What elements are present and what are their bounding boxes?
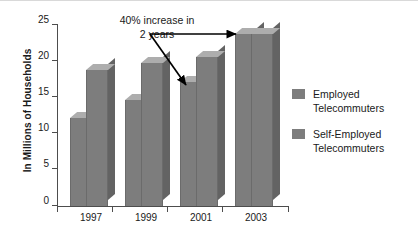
bar-2001-self-employed bbox=[196, 57, 218, 206]
y-tick-label-5: 5 bbox=[43, 158, 49, 169]
bar-side bbox=[273, 22, 280, 200]
y-tick-label-15: 15 bbox=[38, 86, 49, 97]
y-axis-title: In Millions of Households bbox=[22, 26, 33, 196]
y-tick-label-25: 25 bbox=[38, 14, 49, 25]
annotation-text: 40% increase in 2 years bbox=[98, 13, 216, 41]
legend-label-employed-line-2: Telecommuters bbox=[313, 101, 384, 115]
bar-1997-self-employed bbox=[86, 70, 108, 206]
y-tick-0 bbox=[52, 205, 57, 206]
legend-label-employed: Employed Telecommuters bbox=[313, 87, 384, 116]
legend-item-self-employed: Self-Employed Telecommuters bbox=[292, 127, 416, 156]
bar-chart: In Millions of Households 25 20 15 10 5 … bbox=[0, 0, 418, 234]
y-tick-15 bbox=[52, 96, 57, 97]
legend-label-employed-line-1: Employed bbox=[313, 87, 384, 101]
bar-side bbox=[163, 51, 170, 200]
y-tick-5 bbox=[52, 168, 57, 169]
y-axis-line bbox=[57, 24, 58, 207]
annotation-line-1: 40% increase in bbox=[98, 13, 216, 27]
y-tick-20 bbox=[52, 60, 57, 61]
x-tick-label-2003: 2003 bbox=[245, 212, 267, 223]
legend-swatch-self-employed bbox=[292, 129, 305, 139]
x-tick-0 bbox=[57, 207, 58, 212]
x-axis-line bbox=[57, 206, 289, 207]
x-tick-3 bbox=[222, 207, 223, 212]
x-tick-label-2001: 2001 bbox=[190, 212, 212, 223]
legend-label-self-employed-line-1: Self-Employed bbox=[313, 127, 384, 141]
bar-face bbox=[86, 70, 108, 206]
bar-side bbox=[218, 45, 225, 200]
plot-area: 25 20 15 10 5 0 1997 bbox=[57, 24, 289, 207]
legend-label-self-employed-line-2: Telecommuters bbox=[313, 141, 384, 155]
y-tick-10 bbox=[52, 132, 57, 133]
x-tick-label-1997: 1997 bbox=[80, 212, 102, 223]
bar-2003-self-employed bbox=[251, 34, 273, 206]
x-tick-label-1999: 1999 bbox=[135, 212, 157, 223]
y-tick-label-20: 20 bbox=[38, 50, 49, 61]
legend-label-self-employed: Self-Employed Telecommuters bbox=[313, 127, 384, 156]
x-tick-2 bbox=[167, 207, 168, 212]
bar-1999-self-employed bbox=[141, 63, 163, 206]
x-tick-1 bbox=[112, 207, 113, 212]
bar-face bbox=[251, 34, 273, 206]
y-tick-label-10: 10 bbox=[38, 122, 49, 133]
bar-face bbox=[196, 57, 218, 206]
legend-swatch-employed bbox=[292, 89, 305, 99]
bar-side bbox=[108, 58, 115, 200]
y-tick-label-0: 0 bbox=[43, 195, 49, 206]
x-tick-4 bbox=[288, 207, 289, 212]
legend: Employed Telecommuters Self-Employed Tel… bbox=[292, 87, 416, 167]
bar-face bbox=[141, 63, 163, 206]
y-tick-25 bbox=[52, 24, 57, 25]
legend-item-employed: Employed Telecommuters bbox=[292, 87, 416, 116]
annotation-line-2: 2 years bbox=[98, 27, 216, 41]
